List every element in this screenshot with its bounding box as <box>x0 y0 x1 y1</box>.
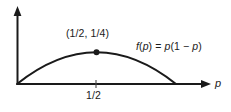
x-axis-arrowhead <box>201 80 211 88</box>
factor-open: (1 − <box>170 40 192 52</box>
x-tick-label-half: 1/2 <box>86 90 101 101</box>
vertex-coordinate-label: (1/2, 1/4) <box>66 28 109 39</box>
y-axis-arrowhead <box>14 6 22 16</box>
function-plot-figure: (1/2, 1/4) f(p) = p(1 − p) 1/2 p <box>0 0 231 112</box>
vertex-point-marker <box>94 49 100 55</box>
function-expression-label: f(p) = p(1 − p) <box>136 41 202 52</box>
plot-canvas <box>0 0 231 112</box>
equals-sign: = <box>152 40 164 52</box>
parabola-curve <box>17 52 176 84</box>
factor-close: ) <box>198 40 202 52</box>
x-axis-label: p <box>215 78 221 89</box>
